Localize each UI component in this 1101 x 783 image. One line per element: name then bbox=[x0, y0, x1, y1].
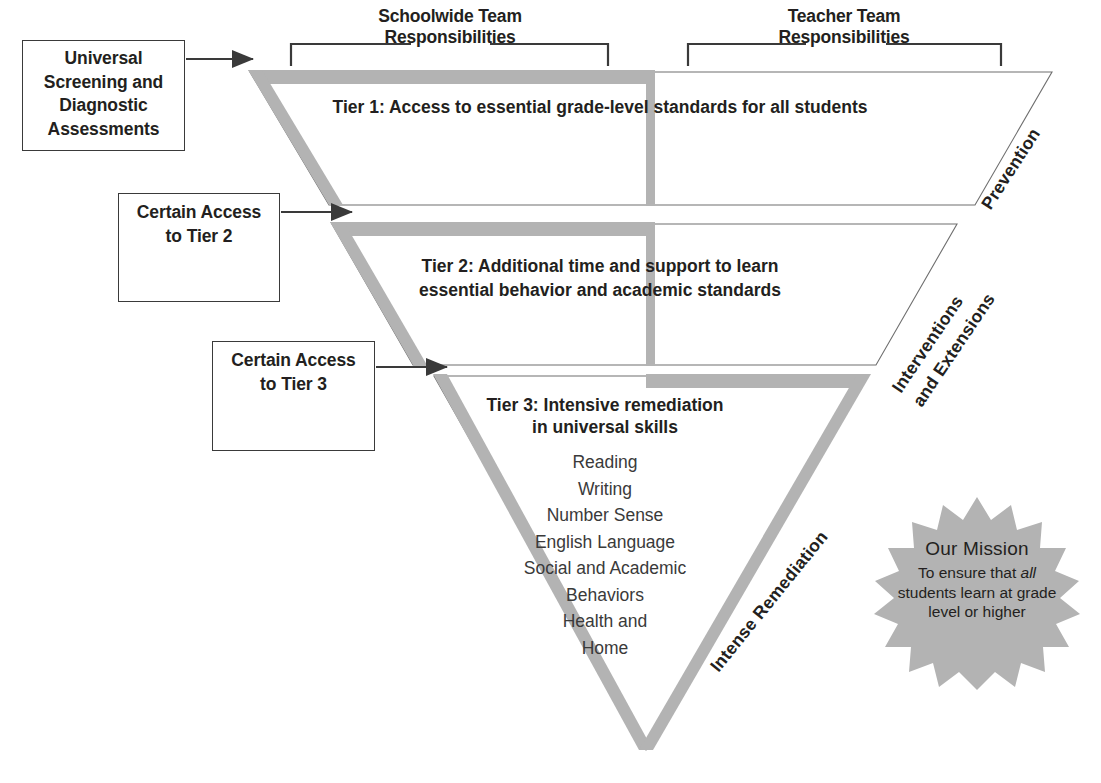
box-certain-access-tier3[interactable]: Certain Access to Tier 3 bbox=[212, 341, 375, 451]
tier2-description-line1: Tier 2: Additional time and support to l… bbox=[422, 256, 779, 276]
diagram-canvas: Schoolwide Team Responsibilities Teacher… bbox=[0, 0, 1101, 783]
tier3-description: Tier 3: Intensive remediation in univers… bbox=[420, 394, 790, 438]
tier1-shape bbox=[248, 70, 1052, 206]
header-teacher-team: Teacher Team Responsibilities bbox=[728, 6, 960, 48]
mission-line2: students learn at grade bbox=[898, 584, 1057, 601]
line-2: to Tier 2 bbox=[166, 226, 233, 246]
tier1-top-band-left bbox=[248, 70, 652, 84]
tier1-team-divider bbox=[646, 70, 655, 206]
list-item: English Language bbox=[420, 529, 790, 556]
header-teacher-line2: Responsibilities bbox=[779, 27, 910, 47]
header-teacher-line1: Teacher Team bbox=[788, 6, 901, 26]
line-1: Certain Access bbox=[137, 202, 261, 222]
header-schoolwide-line2: Responsibilities bbox=[385, 27, 516, 47]
tier1-description: Tier 1: Access to essential grade-level … bbox=[290, 96, 910, 118]
mission-line3: level or higher bbox=[928, 603, 1025, 620]
list-item: Social and Academic bbox=[420, 555, 790, 582]
tier2-description: Tier 2: Additional time and support to l… bbox=[350, 254, 850, 302]
list-item: Writing bbox=[420, 476, 790, 503]
list-item: Number Sense bbox=[420, 502, 790, 529]
mission-title: Our Mission bbox=[866, 536, 1088, 562]
box-certain-access-tier3-label: Certain Access to Tier 3 bbox=[231, 342, 355, 396]
tier3-description-line2: in universal skills bbox=[532, 417, 678, 437]
box-universal-screening[interactable]: Universal Screening and Diagnostic Asses… bbox=[22, 40, 185, 151]
line-2: Screening and bbox=[44, 72, 163, 92]
line-4: Assessments bbox=[48, 119, 160, 139]
line-2: to Tier 3 bbox=[260, 374, 327, 394]
tier2-top-band-left bbox=[330, 222, 652, 236]
line-1: Certain Access bbox=[231, 350, 355, 370]
mission-line1-pre: To ensure that bbox=[918, 564, 1021, 581]
mission-callout: Our Mission To ensure that all students … bbox=[866, 497, 1088, 677]
box-universal-screening-label: Universal Screening and Diagnostic Asses… bbox=[44, 41, 163, 141]
tier2-description-line2: essential behavior and academic standard… bbox=[419, 280, 781, 300]
list-item: Behaviors bbox=[420, 582, 790, 609]
box-certain-access-tier2[interactable]: Certain Access to Tier 2 bbox=[118, 193, 280, 302]
mission-line1-emphasis: all bbox=[1021, 564, 1037, 581]
header-schoolwide-team: Schoolwide Team Responsibilities bbox=[330, 6, 570, 48]
mission-text: Our Mission To ensure that all students … bbox=[866, 536, 1088, 622]
header-schoolwide-line1: Schoolwide Team bbox=[378, 6, 522, 26]
list-item: Reading bbox=[420, 449, 790, 476]
box-certain-access-tier2-label: Certain Access to Tier 2 bbox=[137, 194, 261, 248]
line-3: Diagnostic bbox=[59, 95, 147, 115]
line-1: Universal bbox=[65, 48, 143, 68]
tier3-description-line1: Tier 3: Intensive remediation bbox=[487, 395, 724, 415]
tier3-top-band-right bbox=[646, 374, 857, 388]
